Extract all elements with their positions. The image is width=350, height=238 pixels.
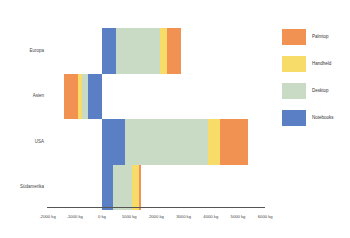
x-tick-label: 1000 kg	[114, 214, 144, 219]
bar-segment-desktop	[113, 165, 132, 211]
legend-label: Notebooks	[312, 115, 334, 120]
x-tick-label: 2000 kg	[141, 214, 171, 219]
legend-label: Desktop	[312, 88, 329, 93]
legend-swatch	[282, 29, 306, 45]
bar-segment-notebooks	[102, 119, 125, 165]
x-tick-label: 3000 kg	[169, 214, 199, 219]
category-label: USA	[0, 139, 44, 144]
x-tick-label: 0 kg	[87, 214, 117, 219]
x-tick-label: 4000 kg	[196, 214, 226, 219]
bar-segment-handheld	[208, 119, 220, 165]
legend-swatch	[282, 110, 306, 126]
x-tick-label: 5000 kg	[223, 214, 253, 219]
x-tick-label: -2000 kg	[33, 214, 63, 219]
legend-label: Palmtop	[312, 34, 329, 39]
category-label: Südamerika	[0, 184, 44, 189]
bar-segment-desktop	[125, 119, 208, 165]
legend-label: Handheld	[312, 61, 331, 66]
bar-segment-palmtop	[139, 165, 142, 211]
x-axis-line	[47, 207, 265, 208]
legend-swatch	[282, 83, 306, 99]
x-tick-label: 6000 kg	[250, 214, 280, 219]
bar-segment-notebooks	[102, 28, 116, 74]
bar-segment-palmtop	[167, 28, 181, 74]
x-tick-label: -1000 kg	[60, 214, 90, 219]
bar-segment-palmtop	[64, 74, 78, 120]
category-label: Europa	[0, 48, 44, 53]
bar-segment-desktop	[116, 28, 161, 74]
category-label: Asien	[0, 93, 44, 98]
bar-segment-notebooks	[88, 74, 102, 120]
bar-segment-palmtop	[220, 119, 247, 165]
bar-segment-handheld	[160, 28, 167, 74]
legend-swatch	[282, 56, 306, 72]
bar-segment-notebooks	[102, 165, 113, 211]
bar-segment-desktop	[82, 74, 89, 120]
bar-segment-handheld	[132, 165, 139, 211]
bar-segment-handheld	[78, 74, 82, 120]
stacked-bar-chart: EuropaAsienUSASüdamerika -2000 kg-1000 k…	[0, 0, 350, 238]
